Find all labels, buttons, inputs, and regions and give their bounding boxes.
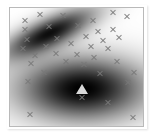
density-heatmap-canvas xyxy=(10,8,143,126)
plot-area xyxy=(9,7,144,127)
mode-marker-triangle-icon xyxy=(76,84,88,94)
density-plot-figure xyxy=(0,0,154,137)
